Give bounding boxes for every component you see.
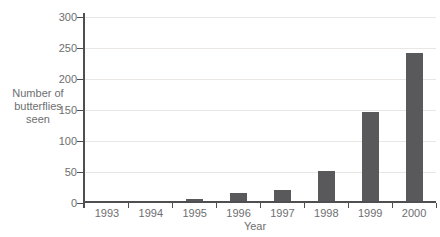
x-tick-label-1993: 1993 xyxy=(85,207,129,219)
gridline-50 xyxy=(85,172,436,173)
gridline-200 xyxy=(85,79,436,80)
y-tick-label-50: 50 xyxy=(37,166,77,178)
butterfly-bar-chart: Number of butterflies seen 0501001502002… xyxy=(0,0,440,237)
y-axis-line xyxy=(83,13,85,208)
bar-1999 xyxy=(362,112,379,202)
gridline-150 xyxy=(85,110,436,111)
plot-area: 0501001502002503001993199419951996199719… xyxy=(85,17,436,203)
x-tick-label-1997: 1997 xyxy=(261,207,305,219)
gridline-300 xyxy=(85,17,436,18)
y-tick-label-150: 150 xyxy=(37,104,77,116)
y-tick-label-100: 100 xyxy=(37,135,77,147)
bar-1998 xyxy=(318,171,335,202)
x-tick-label-1996: 1996 xyxy=(217,207,261,219)
bar-2000 xyxy=(406,53,423,202)
gridline-250 xyxy=(85,48,436,49)
y-tick-label-200: 200 xyxy=(37,73,77,85)
y-tick-label-300: 300 xyxy=(37,11,77,23)
x-tick-label-1994: 1994 xyxy=(129,207,173,219)
x-axis-title: Year xyxy=(85,220,425,232)
y-tick-label-250: 250 xyxy=(37,42,77,54)
x-tick-label-1998: 1998 xyxy=(304,207,348,219)
x-tick-label-2000: 2000 xyxy=(392,207,436,219)
x-tick-label-1999: 1999 xyxy=(348,207,392,219)
y-tick-label-0: 0 xyxy=(37,197,77,209)
gridline-100 xyxy=(85,141,436,142)
x-axis-line xyxy=(83,201,436,203)
x-tick-label-1995: 1995 xyxy=(173,207,217,219)
